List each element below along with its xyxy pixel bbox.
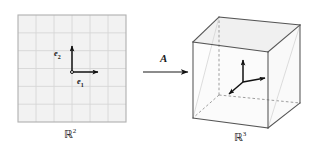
map-label-A: A (160, 52, 167, 64)
domain-label-r2: ℝ2 (64, 127, 76, 141)
basis-label-e2: e2 (54, 48, 61, 60)
codomain-cube (193, 17, 300, 128)
figure-canvas (0, 0, 315, 154)
linear-map-figure: e1 e2 A ℝ2 ℝ3 (0, 0, 315, 154)
basis-label-e1: e1 (77, 76, 84, 88)
codomain-label-r3: ℝ3 (234, 130, 246, 144)
cube-front-face-shade (193, 42, 268, 128)
